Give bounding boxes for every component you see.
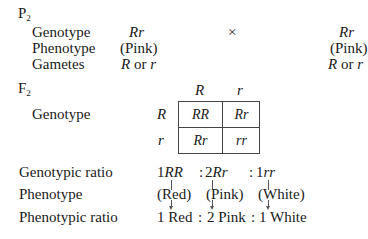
ratio-separator-2: : (249, 165, 253, 180)
p2-gametes-label: Gametes (32, 57, 84, 72)
grid-divider-horizontal (179, 127, 259, 128)
f2-genotype-label: Genotype (32, 107, 90, 122)
phenotypic-ratio-pink: 2 Pink (207, 210, 246, 225)
genotypic-ratio-RR: 1RR (157, 165, 183, 180)
phenotypic-ratio-label: Phenotypic ratio (19, 210, 118, 225)
punnett-cell-Rr-bottom: Rr (179, 133, 222, 149)
ratio-genotype: Rr (213, 164, 228, 180)
ratio-genotype: rr (264, 164, 276, 180)
arrow-down-icon (169, 206, 173, 210)
p2-gametes-left: R or r (121, 57, 156, 72)
genotypic-ratio-label: Genotypic ratio (19, 165, 113, 180)
p2-phenotype-right: (Pink) (330, 41, 368, 56)
phenotype-white: (White) (258, 187, 305, 202)
punnett-col-header-R: R (195, 83, 204, 98)
arrow-down-icon (266, 206, 270, 210)
gamete-right-a: R (328, 56, 337, 72)
punnett-col-header-r: r (237, 83, 243, 98)
genotypic-ratio-rr: 1rr (256, 165, 275, 180)
f2-label-sub: 2 (26, 88, 31, 98)
punnett-cell-Rr-top: Rr (223, 107, 260, 123)
p2-phenotype-left: (Pink) (120, 41, 158, 56)
ratio-count: 1 (157, 164, 165, 180)
p2-genotype-left: Rr (129, 25, 144, 40)
cross-symbol: × (228, 25, 236, 40)
punnett-square: RR Rr Rr rr (178, 101, 260, 154)
arrow-line-rr-top (171, 180, 172, 190)
punnett-row-header-R: R (157, 107, 166, 122)
gamete-left-a: R (121, 56, 130, 72)
ratio-count: 1 (256, 164, 264, 180)
punnett-cell-rr: rr (223, 133, 260, 149)
phenotypic-ratio-sep-2: : (251, 210, 255, 225)
ratio-count: 2 (205, 164, 213, 180)
arrow-line-Rr-top (212, 180, 213, 190)
ratio-genotype: RR (165, 164, 183, 180)
genotypic-ratio-Rr: 2Rr (205, 165, 228, 180)
phenotypic-ratio-red: 1 Red (157, 210, 192, 225)
p2-label-sub: 2 (26, 13, 31, 23)
punnett-cell-RR: RR (179, 107, 222, 123)
f2-label: F2 (18, 81, 31, 101)
punnett-row-header-r: r (158, 133, 164, 148)
p2-phenotype-label: Phenotype (32, 41, 95, 56)
p2-gametes-right: R or r (328, 57, 363, 72)
gamete-left-b: r (150, 56, 156, 72)
phenotypic-ratio-sep-1: : (198, 210, 202, 225)
ratio-separator-1: : (199, 165, 203, 180)
phenotype-red: (Red) (157, 187, 191, 202)
arrow-line-rr-small-top (268, 180, 269, 190)
p2-label: P2 (18, 6, 31, 26)
phenotype-label: Phenotype (19, 187, 82, 202)
phenotypic-ratio-white: 1 White (259, 210, 307, 225)
p2-genotype-label: Genotype (32, 25, 90, 40)
gamete-right-b: r (357, 56, 363, 72)
gamete-right-or: or (337, 56, 357, 72)
arrow-down-icon (210, 206, 214, 210)
p2-genotype-right: Rr (339, 25, 354, 40)
gamete-left-or: or (130, 56, 150, 72)
